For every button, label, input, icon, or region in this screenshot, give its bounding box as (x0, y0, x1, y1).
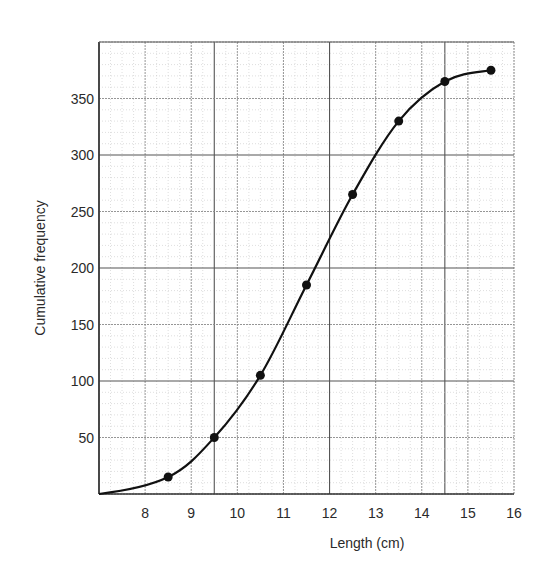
data-point (348, 190, 357, 199)
y-tick-label: 150 (71, 317, 95, 333)
x-tick-label: 16 (506, 505, 522, 521)
x-tick-label: 8 (141, 505, 149, 521)
data-point (302, 280, 311, 289)
y-tick-label: 300 (71, 147, 95, 163)
x-tick-label: 11 (276, 505, 291, 521)
x-tick-label: 14 (414, 505, 430, 521)
x-tick-labels: 8910111213141516 (141, 505, 522, 521)
y-tick-label: 350 (71, 91, 95, 107)
y-tick-labels: 50100150200250300350 (71, 91, 95, 446)
x-tick-label: 13 (368, 505, 384, 521)
x-tick-label: 9 (187, 505, 195, 521)
data-point (486, 66, 495, 75)
y-axis-label: Cumulative frequency (32, 200, 48, 335)
y-tick-label: 200 (71, 260, 95, 276)
y-tick-label: 250 (71, 204, 95, 220)
y-tick-label: 50 (78, 430, 94, 446)
x-tick-label: 12 (322, 505, 338, 521)
x-axis-label: Length (cm) (330, 535, 405, 551)
data-point (256, 371, 265, 380)
data-point (394, 117, 403, 126)
data-point (440, 77, 449, 86)
data-point (210, 433, 219, 442)
data-point (164, 473, 173, 482)
x-tick-label: 15 (460, 505, 476, 521)
cumulative-frequency-chart: 8910111213141516 50100150200250300350 Le… (0, 0, 554, 578)
y-tick-label: 100 (71, 373, 95, 389)
x-tick-label: 10 (230, 505, 246, 521)
grid (99, 42, 514, 494)
